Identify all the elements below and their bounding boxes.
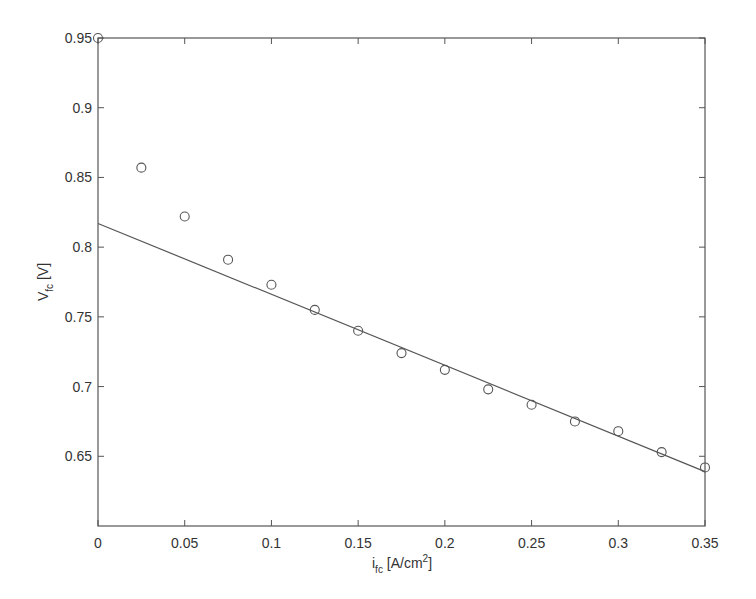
y-tick-label: 0.65	[65, 448, 92, 464]
data-point-marker	[484, 385, 493, 394]
data-point-marker	[224, 255, 233, 264]
y-tick-label: 0.9	[73, 100, 93, 116]
x-tick-label: 0.2	[435, 535, 455, 551]
data-point-marker	[267, 280, 276, 289]
y-axis-ticks: 0.650.70.750.80.850.90.95	[65, 30, 705, 464]
data-point-marker	[137, 163, 146, 172]
y-axis-label: Vfc [V]	[35, 263, 55, 301]
x-axis-label: ifc [A/cm2]	[372, 553, 432, 575]
x-tick-label: 0.35	[691, 535, 718, 551]
chart-plot: 00.050.10.150.20.250.30.35 0.650.70.750.…	[0, 0, 756, 599]
data-point-marker	[310, 305, 319, 314]
axes-frame	[98, 38, 705, 526]
x-tick-label: 0.15	[345, 535, 372, 551]
x-axis-ticks: 00.050.10.150.20.250.30.35	[94, 38, 719, 551]
data-point-marker	[440, 365, 449, 374]
x-tick-label: 0.1	[262, 535, 282, 551]
data-markers	[94, 34, 710, 472]
data-point-marker	[180, 212, 189, 221]
fit-line-segment	[98, 223, 705, 471]
axes-box	[98, 38, 705, 526]
data-point-marker	[614, 427, 623, 436]
fit-line	[98, 223, 705, 471]
x-tick-label: 0.05	[171, 535, 198, 551]
y-tick-label: 0.8	[73, 239, 93, 255]
x-tick-label: 0.3	[609, 535, 629, 551]
data-point-marker	[527, 400, 536, 409]
x-tick-label: 0	[94, 535, 102, 551]
data-point-marker	[397, 349, 406, 358]
y-tick-label: 0.75	[65, 309, 92, 325]
y-tick-label: 0.7	[73, 379, 93, 395]
y-tick-label: 0.85	[65, 169, 92, 185]
x-tick-label: 0.25	[518, 535, 545, 551]
y-tick-label: 0.95	[65, 30, 92, 46]
